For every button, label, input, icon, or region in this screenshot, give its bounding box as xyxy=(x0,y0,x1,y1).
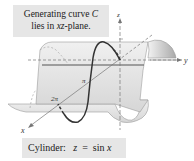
generating-curve-callout: Generating curve C lies in xz-plane. xyxy=(13,5,109,37)
z-axis-label: z xyxy=(116,11,120,19)
two-pi-tick-label: 2π xyxy=(51,95,59,103)
y-axis-label: y xyxy=(183,56,188,65)
figure-caption: Cylinder: z = sin x xyxy=(22,138,126,158)
caption-label: Cylinder: xyxy=(28,142,66,153)
x-axis-label: x xyxy=(20,126,25,135)
pi-tick-label: π xyxy=(82,77,86,85)
surface-crest-cap xyxy=(148,40,176,58)
